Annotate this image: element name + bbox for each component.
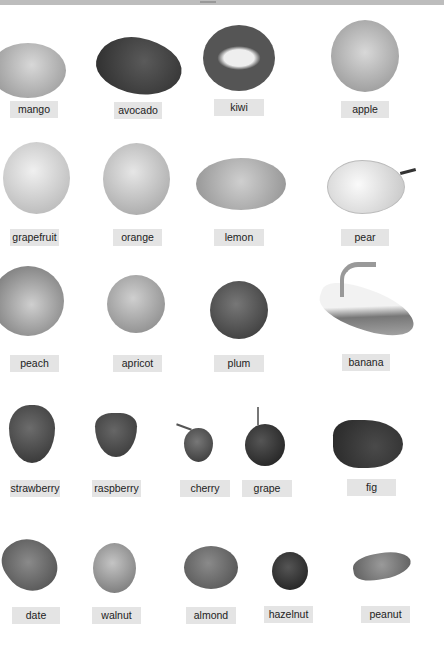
pear-image [327, 160, 405, 214]
label-fig: fig [347, 479, 396, 496]
almond-image [184, 546, 238, 589]
label-banana: banana [342, 354, 390, 371]
pear-stem [400, 168, 416, 175]
label-cherry: cherry [180, 480, 230, 497]
page-marker [200, 1, 216, 3]
label-avocado: avocado [114, 102, 162, 119]
label-apricot: apricot [113, 355, 162, 372]
label-orange: orange [113, 229, 162, 246]
label-apple: apple [341, 101, 389, 118]
label-kiwi: kiwi [214, 99, 264, 116]
label-raspberry: raspberry [92, 480, 141, 497]
apple-image [331, 20, 399, 92]
banana-peel [340, 262, 376, 297]
avocado-image [92, 31, 186, 101]
label-lemon: lemon [214, 229, 264, 246]
label-date: date [12, 607, 60, 624]
label-mango: mango [10, 101, 58, 118]
label-walnut: walnut [92, 607, 141, 624]
walnut-image [93, 543, 136, 593]
grape-stem [257, 407, 259, 425]
kiwi-image [203, 25, 275, 91]
hazelnut-image [272, 552, 308, 590]
raspberry-image [95, 413, 137, 457]
label-plum: plum [214, 355, 264, 372]
label-grapefruit: grapefruit [10, 229, 59, 246]
cherry-image [184, 428, 213, 462]
fig-image [333, 420, 403, 468]
mango-image [0, 43, 66, 98]
label-pear: pear [341, 229, 389, 246]
grapefruit-image [3, 142, 70, 214]
top-bar [0, 0, 444, 5]
cherry-stem [176, 423, 192, 430]
label-peanut: peanut [361, 606, 410, 623]
label-hazelnut: hazelnut [264, 606, 313, 623]
grape-image [245, 424, 285, 466]
peach-image [0, 266, 64, 336]
peanut-image [351, 548, 413, 584]
lemon-image [196, 158, 286, 210]
strawberry-image [9, 405, 55, 463]
apricot-image [107, 275, 165, 333]
label-grape: grape [242, 480, 292, 497]
label-strawberry: strawberry [10, 480, 60, 497]
date-image [0, 528, 66, 602]
label-almond: almond [186, 607, 236, 624]
plum-image [210, 281, 268, 339]
orange-image [103, 143, 170, 215]
label-peach: peach [10, 355, 59, 372]
